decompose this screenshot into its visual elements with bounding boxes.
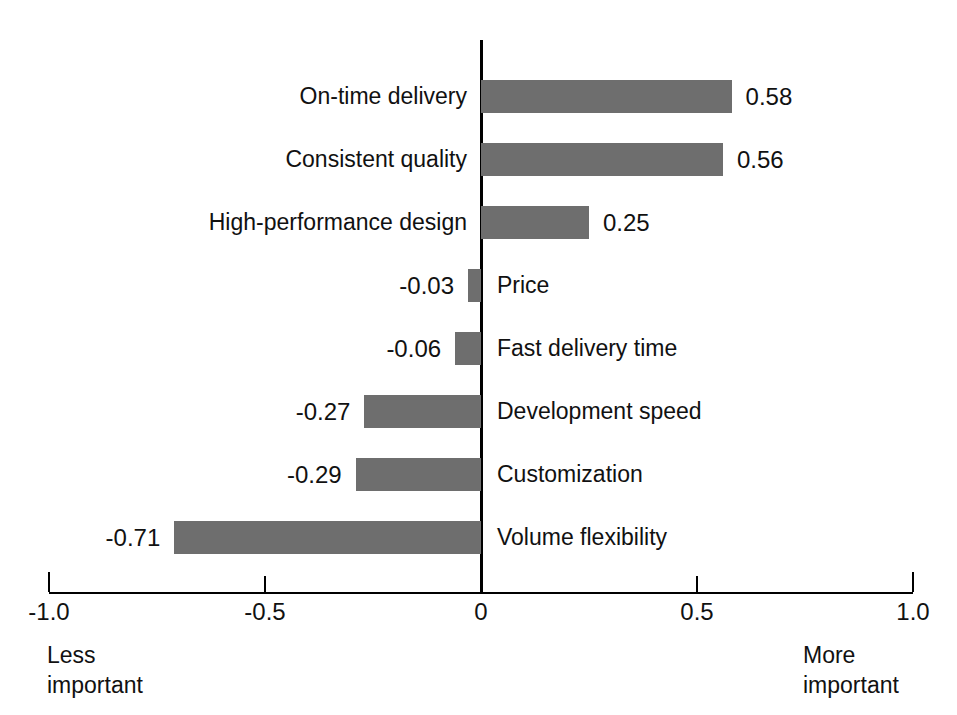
more-important-note: More important [803,640,923,700]
x-axis-tick-label: -1.0 [0,598,109,626]
x-axis-tick [696,576,698,592]
zero-axis-line [480,40,483,592]
x-axis-tick [264,576,266,592]
bar-value-label: -0.71 [0,521,160,554]
bar-chart: -1.0-0.500.51.0On-time delivery0.58Consi… [0,0,957,715]
plot-area: -1.0-0.500.51.0On-time delivery0.58Consi… [0,0,957,715]
bar-category-label: Customization [497,458,643,491]
x-axis-tick [912,572,914,592]
bar-category-label: Consistent quality [0,143,467,176]
bar [481,206,589,239]
bar [455,332,481,365]
bar-category-label: Volume flexibility [497,521,667,554]
x-axis-tick-label: 0 [421,598,541,626]
x-axis-tick [480,576,482,592]
bar-category-label: High-performance design [0,206,467,239]
x-axis-tick [48,572,50,592]
x-axis-line [49,592,913,594]
bar-value-label: 0.58 [746,80,793,113]
bar [468,269,481,302]
bar-value-label: -0.06 [0,332,441,365]
bar [356,458,481,491]
bar [481,80,732,113]
bar-value-label: -0.29 [0,458,342,491]
bar-value-label: 0.56 [737,143,784,176]
bar-value-label: 0.25 [603,206,650,239]
less-important-note: Less important [47,640,143,700]
bar-category-label: Price [497,269,549,302]
bar-value-label: -0.27 [0,395,350,428]
bar [364,395,481,428]
bar-category-label: Development speed [497,395,702,428]
bar-value-label: -0.03 [0,269,454,302]
x-axis-tick-label: 0.5 [637,598,757,626]
bar-category-label: Fast delivery time [497,332,677,365]
x-axis-tick-label: -0.5 [205,598,325,626]
x-axis-tick-label: 1.0 [853,598,957,626]
bar-category-label: On-time delivery [0,80,467,113]
bar [481,143,723,176]
bar [174,521,481,554]
